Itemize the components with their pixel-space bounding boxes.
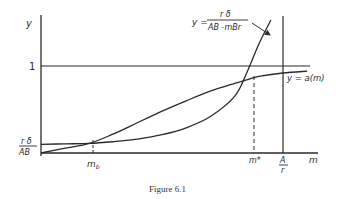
a-m-curve-label: y = a(m): [286, 73, 325, 83]
y-axis-label: y: [25, 18, 33, 29]
y-tick-label-1: 1: [29, 61, 35, 72]
hyperbola-label-lhs: y =: [191, 17, 208, 27]
x-tick-label-mstar: m*: [249, 156, 261, 165]
x-tick-label-r-den: r: [281, 166, 285, 175]
y-tick-label-rdelta-den: AB: [18, 148, 30, 157]
figure-caption: Figure 6.1: [149, 184, 186, 194]
hyperbola-label-num: r δ: [220, 10, 231, 19]
series-a-m-line: [41, 71, 307, 153]
series-hyperbola-line: [41, 20, 271, 144]
y-tick-label-rdelta-num: r δ: [21, 137, 32, 146]
figure: y 1 r δ AB mb m* A r m y = r δ AB -mBr y…: [0, 0, 349, 199]
hyperbola-annotation-arrow: [252, 23, 270, 35]
x-axis-label: m: [309, 155, 318, 165]
x-tick-label-a-num: A: [279, 156, 285, 165]
hyperbola-label-den: AB -mBr: [207, 23, 242, 32]
x-tick-label-mb: mb: [87, 159, 100, 170]
